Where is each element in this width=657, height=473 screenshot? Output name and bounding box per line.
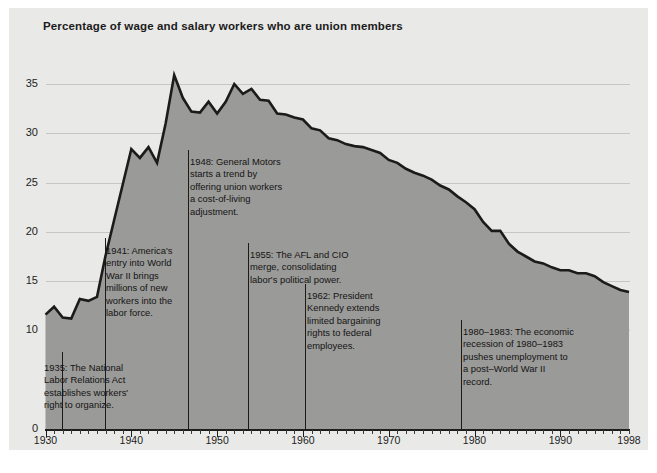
annotation-1955: 1955: The AFL and CIO merge, consolidati… <box>250 249 349 286</box>
gridline <box>46 133 630 134</box>
x-tick-mark <box>603 430 604 434</box>
x-tick-mark <box>509 430 510 434</box>
x-tick-label: 1990 <box>538 434 582 446</box>
x-tick-mark <box>449 430 450 434</box>
x-tick-mark <box>423 430 424 434</box>
page-title: Percentage of wage and salary workers wh… <box>43 20 403 32</box>
x-tick-label: 1950 <box>195 434 239 446</box>
annotation-1948: 1948: General Motors starts a trend by o… <box>190 156 282 218</box>
x-tick-mark <box>500 430 501 434</box>
x-tick-mark <box>595 430 596 434</box>
x-tick-mark <box>432 430 433 434</box>
x-tick-label: 1960 <box>281 434 325 446</box>
x-tick-mark <box>166 430 167 434</box>
gridline <box>46 183 630 184</box>
y-tick-label: 10 <box>8 323 38 335</box>
x-tick-mark <box>354 430 355 434</box>
x-tick-mark <box>106 430 107 434</box>
x-tick-mark <box>251 430 252 434</box>
annotation-1962: 1962: President Kennedy extends limited … <box>307 290 380 352</box>
annotation-leader-line <box>461 320 462 429</box>
annotation-leader-line <box>188 150 189 429</box>
x-tick-mark <box>243 430 244 434</box>
x-tick-label: 1980 <box>453 434 497 446</box>
chart-page: Percentage of wage and salary workers wh… <box>0 0 657 473</box>
annotation-leader-line <box>248 243 249 429</box>
x-tick-mark <box>88 430 89 434</box>
x-tick-label: 1940 <box>109 434 153 446</box>
y-tick-label: 25 <box>8 176 38 188</box>
x-tick-label: 1998 <box>607 434 651 446</box>
x-tick-mark <box>80 430 81 434</box>
x-tick-mark <box>363 430 364 434</box>
x-tick-label: 1930 <box>24 434 68 446</box>
x-tick-mark <box>329 430 330 434</box>
x-tick-mark <box>535 430 536 434</box>
x-tick-mark <box>586 430 587 434</box>
x-tick-mark <box>526 430 527 434</box>
y-tick-label: 15 <box>8 274 38 286</box>
annotation-leader-line <box>305 284 306 429</box>
gridline <box>46 232 630 233</box>
x-tick-label: 1970 <box>367 434 411 446</box>
x-tick-mark <box>440 430 441 434</box>
x-tick-mark <box>97 430 98 434</box>
x-tick-mark <box>269 430 270 434</box>
x-tick-mark <box>346 430 347 434</box>
x-tick-mark <box>517 430 518 434</box>
y-tick-label: 30 <box>8 126 38 138</box>
x-tick-mark <box>414 430 415 434</box>
y-tick-label: 35 <box>8 77 38 89</box>
x-tick-mark <box>260 430 261 434</box>
x-tick-mark <box>71 430 72 434</box>
y-tick-label: 0 <box>8 422 38 434</box>
gridline <box>46 84 630 85</box>
x-tick-mark <box>191 430 192 434</box>
x-tick-mark <box>183 430 184 434</box>
annotation-1935: 1935: The National Labor Relations Act e… <box>44 362 128 412</box>
x-tick-mark <box>174 430 175 434</box>
annotation-1980: 1980–1983: The economic recession of 198… <box>463 326 574 388</box>
annotation-1941: 1941: America's entry into World War II … <box>106 245 172 319</box>
y-tick-label: 20 <box>8 225 38 237</box>
x-tick-mark <box>337 430 338 434</box>
x-tick-mark <box>157 430 158 434</box>
x-tick-mark <box>277 430 278 434</box>
